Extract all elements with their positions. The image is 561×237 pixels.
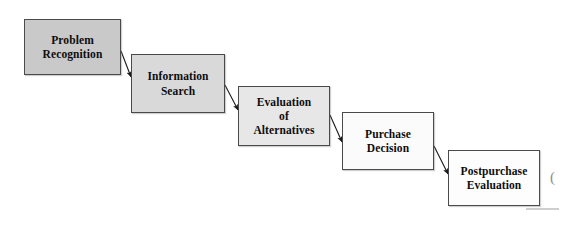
stage-label-evaluation-of-alternatives: Evaluation of Alternatives	[250, 95, 317, 137]
stage-label-purchase-decision: Purchase Decision	[362, 127, 414, 155]
stage-label-postpurchase-evaluation: Postpurchase Evaluation	[458, 164, 531, 192]
arrow-4-to-5	[434, 146, 448, 174]
stage-box-evaluation-of-alternatives[interactable]: Evaluation of Alternatives	[238, 86, 330, 146]
stage-box-postpurchase-evaluation[interactable]: Postpurchase Evaluation	[448, 150, 540, 206]
baseline-rule	[526, 208, 559, 210]
arrow-2-to-3	[225, 85, 238, 110]
stage-box-purchase-decision[interactable]: Purchase Decision	[342, 112, 434, 170]
diagram-canvas: Problem Recognition Information Search E…	[0, 0, 561, 237]
arrow-3-to-4	[330, 115, 342, 142]
stage-label-problem-recognition: Problem Recognition	[40, 33, 106, 61]
stage-box-information-search[interactable]: Information Search	[131, 54, 225, 113]
stage-box-problem-recognition[interactable]: Problem Recognition	[24, 19, 121, 75]
stage-label-information-search: Information Search	[144, 69, 211, 97]
arrow-1-to-2	[121, 51, 131, 77]
clipped-edge-glyph: (	[550, 170, 555, 185]
